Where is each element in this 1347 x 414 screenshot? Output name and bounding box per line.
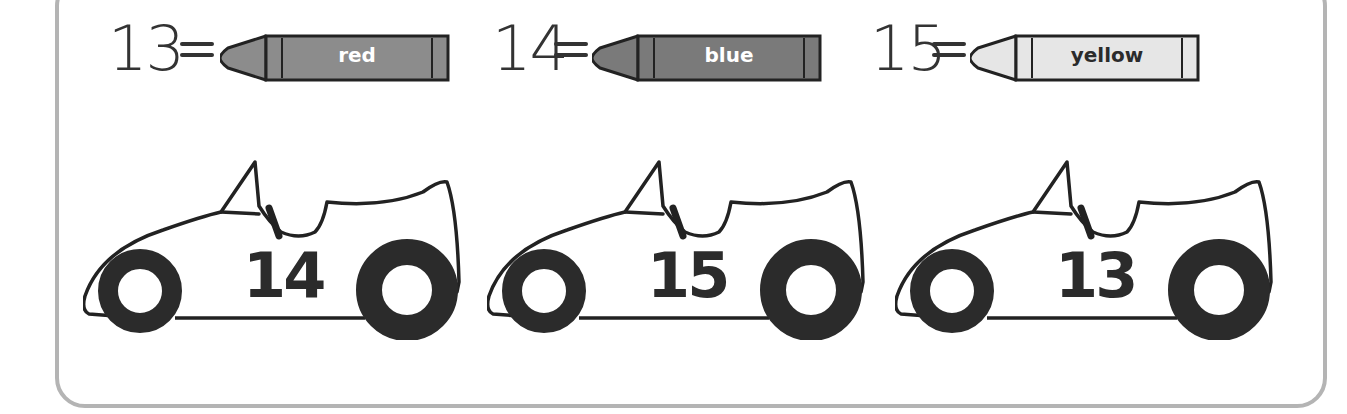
- crayon-yellow[interactable]: yellow: [970, 34, 1310, 82]
- car-number: 14: [243, 245, 323, 307]
- car-number: 13: [1055, 245, 1135, 307]
- equals-sign: [180, 42, 214, 56]
- race-car-2[interactable]: 15: [487, 150, 867, 340]
- crayon-label: yellow: [1032, 34, 1182, 76]
- race-car-3[interactable]: 13: [895, 150, 1275, 340]
- race-car-1[interactable]: 14: [83, 150, 463, 340]
- key-number: 13: [108, 14, 183, 84]
- equals-sign: [932, 42, 966, 56]
- crayon-label: red: [282, 34, 432, 76]
- car-number: 15: [647, 245, 727, 307]
- crayon-label: blue: [654, 34, 804, 76]
- equals-sign: [554, 42, 588, 56]
